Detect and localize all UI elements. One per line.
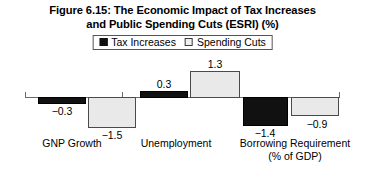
axis-tick-3 — [339, 92, 340, 97]
bar-unemployment-spending-cuts[interactable] — [190, 71, 240, 98]
category-label-gnp-growth-text: GNP Growth — [42, 137, 101, 149]
legend-item-spending-cuts[interactable]: Spending Cuts — [185, 37, 266, 48]
light-square-icon — [185, 38, 193, 46]
bar-gnp-growth-spending-cuts[interactable] — [88, 97, 136, 128]
bar-label-unemployment-tax-increases: 0.3 — [132, 78, 196, 90]
category-label-unemployment: Unemployment — [120, 137, 232, 150]
axis-tick-0 — [25, 92, 26, 97]
bar-label-gnp-growth-tax-increases: −0.3 — [30, 105, 94, 117]
bar-unemployment-tax-increases[interactable] — [140, 91, 188, 98]
legend-label-spending-cuts: Spending Cuts — [197, 37, 266, 48]
bar-borrowing-requirement-tax-increases[interactable] — [243, 97, 288, 126]
figure-chart: Figure 6.15: The Economic Impact of Tax … — [0, 0, 365, 176]
dark-square-icon — [99, 38, 107, 46]
bar-borrowing-requirement-spending-cuts[interactable] — [291, 97, 339, 116]
bar-label-borrowing-requirement-spending-cuts: −0.9 — [285, 118, 349, 130]
category-label-borrowing-requirement: Borrowing Requirement (% of GDP) — [230, 137, 360, 163]
chart-title-line-1: Figure 6.15: The Economic Impact of Tax … — [0, 3, 365, 17]
category-label-borrowing-requirement-text: Borrowing Requirement — [240, 137, 350, 149]
bar-label-unemployment-spending-cuts: 1.3 — [183, 58, 247, 70]
plot-area: −0.3 −1.5 0.3 1.3 −1.4 −0.9 — [0, 55, 365, 133]
bar-gnp-growth-tax-increases[interactable] — [38, 97, 86, 104]
category-label-gnp-growth: GNP Growth — [12, 137, 132, 150]
category-axis-labels: GNP Growth Unemployment Borrowing Requir… — [0, 137, 365, 169]
chart-legend: Tax Increases Spending Cuts — [92, 35, 273, 50]
chart-title: Figure 6.15: The Economic Impact of Tax … — [0, 3, 365, 31]
legend-label-tax-increases: Tax Increases — [111, 37, 176, 48]
legend-item-tax-increases[interactable]: Tax Increases — [99, 37, 176, 48]
category-label-unemployment-text: Unemployment — [141, 137, 212, 149]
category-sublabel-borrowing-requirement: (% of GDP) — [230, 150, 360, 163]
chart-title-line-2: and Public Spending Cuts (ESRI) (%) — [0, 17, 365, 31]
